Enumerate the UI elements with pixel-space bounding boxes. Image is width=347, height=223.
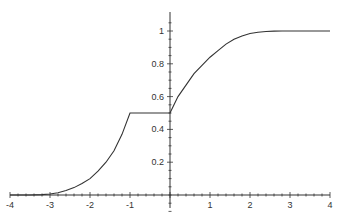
x-tick-label: -1 [126,200,134,210]
y-tick-label: 0.4 [151,124,164,134]
y-tick-label: 0.6 [151,92,164,102]
x-tick-label: 1 [207,200,212,210]
x-tick-label: -2 [86,200,94,210]
x-tick-label: -4 [6,200,14,210]
tick-labels: -4-3-2-112340.20.40.60.81 [6,26,333,210]
y-tick-label: 1 [159,26,164,36]
y-tick-label: 0.2 [151,157,164,167]
x-tick-label: 3 [287,200,292,210]
x-tick-label: -3 [46,200,54,210]
x-tick-label: 4 [327,200,332,210]
y-tick-label: 0.8 [151,59,164,69]
chart: -4-3-2-112340.20.40.60.81 [0,0,347,223]
x-tick-label: 2 [247,200,252,210]
